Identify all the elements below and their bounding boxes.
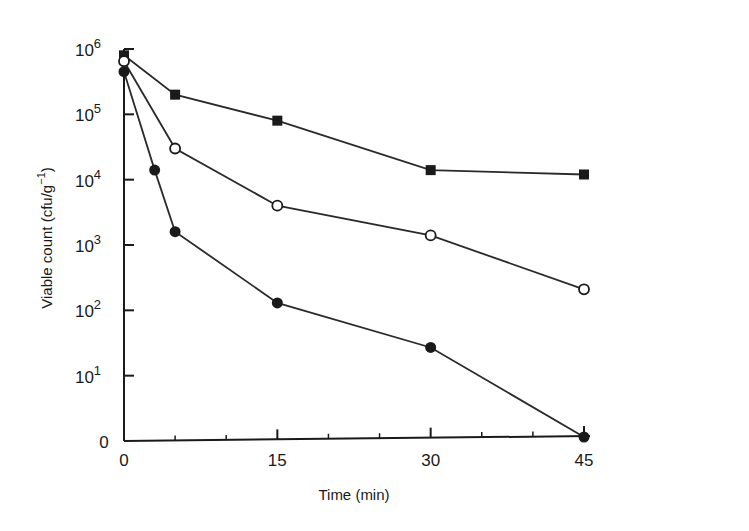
square-marker xyxy=(426,165,436,175)
series-line xyxy=(124,55,584,174)
filled-circle-marker xyxy=(149,165,160,176)
y-tick-label: 102 xyxy=(75,297,101,321)
y-tick-label: 103 xyxy=(75,232,101,256)
y-tick-label: 105 xyxy=(75,101,101,125)
ticks: 01011021031041051060153045 xyxy=(75,36,594,470)
viable-count-chart: 01011021031041051060153045 Time (min) Vi… xyxy=(0,0,749,531)
series-line xyxy=(124,61,584,289)
x-axis-title: Time (min) xyxy=(318,486,389,503)
x-tick-label: 30 xyxy=(421,451,440,470)
filled-circle-marker xyxy=(119,66,130,77)
y-tick-label: 106 xyxy=(75,36,101,60)
series-line xyxy=(124,72,584,437)
x-axis-line xyxy=(124,436,590,441)
y-tick-label: 0 xyxy=(99,433,108,452)
square-marker xyxy=(272,116,282,126)
x-tick-label: 0 xyxy=(119,451,128,470)
data-series xyxy=(119,50,590,442)
filled-circle-marker xyxy=(170,226,181,237)
x-tick-label: 45 xyxy=(575,451,594,470)
y-axis-title-main: Viable count (cfu/g xyxy=(38,185,55,309)
y-tick-label: 104 xyxy=(75,167,101,191)
y-axis-title-sup: −1 xyxy=(35,172,47,185)
filled-circle-marker xyxy=(272,297,283,308)
open-circle-marker xyxy=(170,143,180,153)
x-tick-label: 15 xyxy=(268,451,287,470)
open-circle-marker xyxy=(426,230,436,240)
filled-circle-marker xyxy=(579,432,590,443)
square-marker xyxy=(170,90,180,100)
square-marker xyxy=(579,169,589,179)
y-tick-label: 101 xyxy=(75,363,101,387)
y-axis-title-end: ) xyxy=(38,167,55,172)
open-circle-marker xyxy=(272,201,282,211)
filled-circle-marker xyxy=(425,342,436,353)
open-circle-marker xyxy=(579,284,589,294)
y-axis-title: Viable count (cfu/g−1) xyxy=(35,167,55,309)
open-circle-marker xyxy=(119,56,129,66)
